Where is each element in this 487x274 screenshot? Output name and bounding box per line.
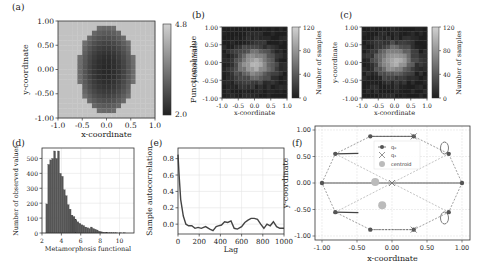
q0-marker xyxy=(368,227,372,231)
svg-text:120: 120 xyxy=(303,24,315,31)
y-tick-label: 300 xyxy=(27,185,39,192)
y-tick-label: -0.50 xyxy=(343,77,359,84)
svg-text:80: 80 xyxy=(303,47,311,54)
x-tick-label: 2 xyxy=(40,237,44,244)
y-tick-label: 0.8 xyxy=(163,155,174,163)
x-tick-label: 0.0 xyxy=(250,102,260,109)
svg-text:0: 0 xyxy=(303,95,307,102)
histogram-bar xyxy=(88,229,90,233)
x-tick-label: -1.00 xyxy=(314,244,331,252)
svg-text:40: 40 xyxy=(303,71,311,78)
colorbar xyxy=(163,24,171,115)
panel-label-f: (f) xyxy=(292,138,302,148)
x-tick-label: -0.5 xyxy=(75,121,90,130)
histogram-bar xyxy=(67,205,69,233)
panel-e: 020040060080010000.00.20.40.60.8LagSampl… xyxy=(145,146,293,254)
x-tick-label: 10 xyxy=(116,237,124,244)
x-tick-label: -1.0 xyxy=(216,102,228,109)
q0-marker xyxy=(447,210,451,214)
y-tick-label: 0.00 xyxy=(205,59,219,66)
svg-text:2.0: 2.0 xyxy=(175,110,187,119)
y-tick-label: 0.4 xyxy=(163,188,175,196)
x-tick-label: 0.0 xyxy=(101,121,113,130)
x-tick-label: 0 xyxy=(176,238,180,246)
y-tick-label: 0.50 xyxy=(345,41,359,48)
histogram-bar xyxy=(87,228,89,233)
colorbar-label: Number of samples xyxy=(315,30,323,94)
y-tick-label: 400 xyxy=(27,170,39,177)
svg-text:40: 40 xyxy=(443,71,451,78)
x-axis-label: Lag xyxy=(224,245,238,254)
y-tick-label: -1.00 xyxy=(343,95,359,102)
x-tick-label: 1.00 xyxy=(455,244,469,252)
x-axis-label: x-coordinate xyxy=(367,254,418,263)
x-axis-label: Metamorphosis functional xyxy=(45,245,131,253)
histogram-bar xyxy=(92,229,94,233)
histogram-bar xyxy=(73,217,75,233)
histogram-bar xyxy=(57,151,59,233)
y-tick-label: 200 xyxy=(27,200,39,207)
svg-text:q₁: q₁ xyxy=(391,152,396,159)
y-tick-label: 0.00 xyxy=(37,65,54,74)
x-axis-label: x-coordinate xyxy=(81,130,132,139)
histogram-bar xyxy=(94,229,96,233)
colorbar xyxy=(292,27,299,98)
x-tick-label: 0.5 xyxy=(266,102,276,109)
svg-text:0: 0 xyxy=(443,95,447,102)
x-tick-label: 1.0 xyxy=(422,102,432,109)
x-tick-label: 8 xyxy=(98,237,102,244)
svg-text:q₀: q₀ xyxy=(391,144,396,151)
x-tick-label: -1.0 xyxy=(356,102,368,109)
histogram-bar xyxy=(48,164,50,233)
y-axis-label: y-coordinate xyxy=(281,157,290,209)
panel-label-c: (c) xyxy=(340,10,352,20)
histogram-bar xyxy=(69,209,71,233)
figure: (a)(b)(c)(d)(e)(f)-1.0-0.50.00.51.01.000… xyxy=(0,0,487,274)
histogram-bar xyxy=(85,227,87,233)
panel-d: 2468100100200300400500Metamorphosis func… xyxy=(12,145,134,253)
x-tick-label: 800 xyxy=(256,238,269,246)
panel-f: q₀q₁centroid-1.00-0.500.000.501.001.000.… xyxy=(281,126,470,263)
y-tick-label: -0.50 xyxy=(35,89,54,98)
y-tick-label: 1.00 xyxy=(37,17,54,26)
q0-marker xyxy=(320,181,324,185)
x-tick-label: 1.0 xyxy=(149,121,161,130)
y-tick-label: -1.00 xyxy=(294,232,311,240)
svg-text:80: 80 xyxy=(443,47,451,54)
x-tick-label: 1.0 xyxy=(282,102,292,109)
autocorrelation-line xyxy=(178,155,284,231)
y-tick-label: 1.00 xyxy=(297,126,311,134)
x-tick-label: 0.5 xyxy=(406,102,416,109)
y-tick-label: 0.00 xyxy=(297,179,311,187)
y-axis-label: y-coordinate xyxy=(331,42,339,84)
histogram-bar xyxy=(59,173,61,233)
centroid-marker xyxy=(371,178,379,186)
y-tick-label: 0.50 xyxy=(37,41,54,50)
x-axis-label: x-coordinate xyxy=(374,109,415,117)
q0-marker xyxy=(333,210,337,214)
y-tick-label: 1.00 xyxy=(205,24,219,31)
x-axis-label: x-coordinate xyxy=(234,109,275,117)
y-tick-label: -0.50 xyxy=(203,77,219,84)
svg-text:4.8: 4.8 xyxy=(175,20,187,29)
x-tick-label: 4 xyxy=(59,237,63,244)
y-axis-label: Sample autocorrelation xyxy=(145,146,154,236)
x-tick-label: 6 xyxy=(79,237,83,244)
histogram-bar xyxy=(56,158,58,233)
x-tick-label: -0.5 xyxy=(232,102,244,109)
histogram-bar xyxy=(90,227,92,233)
x-tick-label: -0.5 xyxy=(372,102,384,109)
y-tick-label: 0.00 xyxy=(345,59,359,66)
histogram-bar xyxy=(63,190,65,233)
x-tick-label: 200 xyxy=(193,238,206,246)
y-tick-label: 0.0 xyxy=(163,221,174,229)
svg-text:120: 120 xyxy=(443,24,455,31)
panel-label-b: (b) xyxy=(192,10,205,20)
y-tick-label: -1.00 xyxy=(35,114,54,123)
panel-label-a: (a) xyxy=(12,2,24,12)
y-tick-label: 100 xyxy=(27,215,39,222)
histogram-bar xyxy=(54,151,56,233)
panel-c: -1.0-0.50.00.51.01.000.500.00-0.50-1.00x… xyxy=(331,24,463,118)
histogram-bar xyxy=(81,225,83,233)
y-tick-label: 500 xyxy=(27,155,39,162)
